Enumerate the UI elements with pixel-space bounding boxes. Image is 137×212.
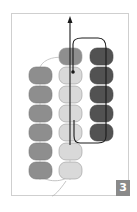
bead [90,105,113,122]
bead [90,48,113,65]
step-number-badge: 3 [116,180,130,196]
bead [29,105,52,122]
bead [29,67,52,84]
bead [59,162,82,179]
bead [29,86,52,103]
bead [29,162,52,179]
bead [59,143,82,160]
bead [90,67,113,84]
left-column-beads [29,67,52,179]
arrow-up-icon [68,16,73,23]
needle-exit-dot-icon [71,70,75,74]
thread-tail [52,181,66,196]
bead [90,124,113,141]
bead [29,124,52,141]
bead [90,86,113,103]
bead [29,143,52,160]
right-column-beads [90,48,113,141]
